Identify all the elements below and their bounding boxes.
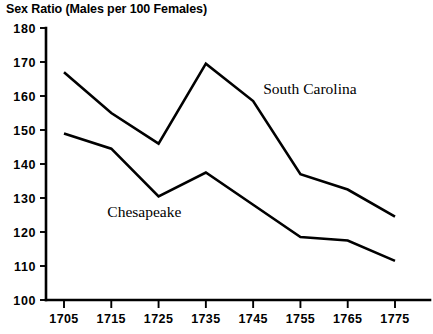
x-tick-label: 1715 [97, 312, 126, 326]
x-tick-label: 1755 [286, 312, 315, 326]
x-axis-tick-labels: 17051715172517351745175517651775 [49, 312, 409, 326]
chart-container: Sex Ratio (Males per 100 Females) 100110… [0, 0, 433, 334]
series-label-chesapeake: Chesapeake [107, 203, 181, 220]
y-axis-tick-labels: 100110120130140150160170180 [13, 22, 36, 308]
y-tick-label: 120 [13, 226, 36, 240]
x-tick-label: 1705 [49, 312, 78, 326]
y-tick-label: 160 [13, 90, 36, 104]
series-label-south-carolina: South Carolina [263, 80, 357, 97]
x-tick-label: 1725 [144, 312, 173, 326]
x-tick-label: 1745 [238, 312, 267, 326]
y-tick-label: 110 [14, 260, 36, 274]
x-tick-label: 1735 [191, 312, 220, 326]
y-tick-label: 130 [13, 192, 36, 206]
series-annotation-group: South CarolinaChesapeake [107, 80, 356, 219]
y-tick-label: 140 [13, 158, 36, 172]
x-tick-label: 1765 [333, 312, 362, 326]
y-tick-label: 170 [13, 56, 36, 70]
y-tick-label: 180 [13, 22, 36, 36]
y-tick-label: 100 [13, 294, 36, 308]
y-tick-label: 150 [13, 124, 36, 138]
series-line-chesapeake [64, 133, 395, 261]
line-chart-plot: 100110120130140150160170180 170517151725… [0, 0, 433, 334]
x-tick-label: 1775 [380, 312, 409, 326]
